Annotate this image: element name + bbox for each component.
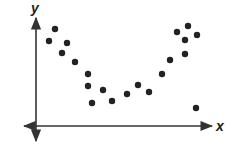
- x-axis-label: x: [215, 118, 225, 134]
- data-point: [72, 59, 78, 65]
- data-point: [124, 91, 130, 97]
- y-axis-label: y: [30, 0, 40, 16]
- data-point: [194, 32, 200, 38]
- data-point: [174, 29, 180, 35]
- data-point: [135, 82, 141, 88]
- data-point: [109, 98, 115, 104]
- data-points: [46, 23, 200, 111]
- data-point: [167, 57, 173, 63]
- data-point: [52, 26, 58, 32]
- data-point: [46, 38, 52, 44]
- data-point: [182, 37, 188, 43]
- data-point: [100, 87, 106, 93]
- data-point: [64, 40, 70, 46]
- data-point: [185, 23, 191, 29]
- data-point: [59, 50, 65, 56]
- data-point: [89, 100, 95, 106]
- data-point: [146, 89, 152, 95]
- data-point: [159, 71, 165, 77]
- data-point: [85, 71, 91, 77]
- data-point: [85, 83, 91, 89]
- data-point: [193, 105, 199, 111]
- scatter-plot: x y: [0, 0, 238, 162]
- data-point: [182, 51, 188, 57]
